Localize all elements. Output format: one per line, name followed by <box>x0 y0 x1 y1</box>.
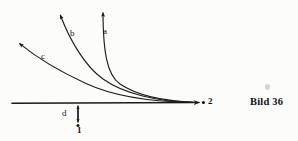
figure-caption: Bild 36 <box>250 96 283 107</box>
figure-bild-36: a b c d 1 2 Bild 36 <box>0 0 298 141</box>
node-2-dot <box>202 101 205 104</box>
node-label-2: 2 <box>208 97 213 106</box>
curve-label-c: c <box>41 52 45 61</box>
curve-label-b: b <box>70 29 75 38</box>
node-label-1: 1 <box>77 126 82 135</box>
diagram-canvas <box>0 0 298 141</box>
curve-b-path <box>60 15 192 102</box>
curve-b-group <box>60 15 192 102</box>
scan-artifact-speck <box>265 84 270 90</box>
baseline-axis-line <box>12 103 199 104</box>
curve-a-group <box>103 13 195 103</box>
distance-marker-d-group <box>77 106 80 127</box>
curve-a-path <box>103 13 195 103</box>
distance-label-d: d <box>62 109 67 118</box>
curve-label-a: a <box>103 27 107 36</box>
